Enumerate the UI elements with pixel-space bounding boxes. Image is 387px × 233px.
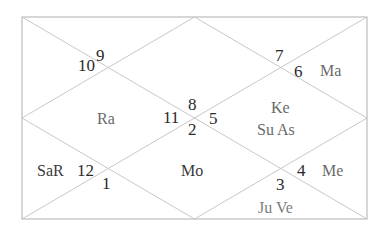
kundli-chart: 9 10 7 6 Ma Ra 8 11 2 5 Ke Su As SaR 12 … [0, 0, 387, 233]
planet-ke: Ke [271, 99, 290, 116]
house-number-8: 8 [188, 95, 197, 114]
planet-sar: SaR [37, 162, 64, 179]
house-number-1: 1 [102, 174, 111, 193]
house-number-12: 12 [77, 161, 94, 180]
planet-su-as: Su As [257, 121, 295, 138]
house-number-3: 3 [276, 175, 285, 194]
planet-ma: Ma [320, 62, 341, 79]
planet-me: Me [322, 162, 343, 179]
house-number-9: 9 [96, 46, 105, 65]
house-number-6: 6 [294, 62, 303, 81]
house-number-10: 10 [78, 56, 95, 75]
planet-mo: Mo [181, 162, 203, 179]
planet-ra: Ra [97, 110, 115, 127]
house-number-2: 2 [188, 120, 197, 139]
house-number-7: 7 [275, 46, 284, 65]
house-number-5: 5 [209, 109, 218, 128]
planet-ju-ve: Ju Ve [258, 199, 293, 216]
house-number-11: 11 [163, 108, 179, 127]
house-number-4: 4 [297, 161, 306, 180]
